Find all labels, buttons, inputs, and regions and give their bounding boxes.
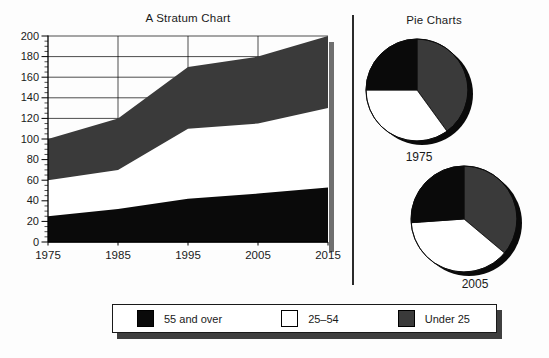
legend-box: 55 and over 25–54 Under 25 [112,304,497,333]
legend-swatch-under-25 [398,310,415,327]
svg-text:1985: 1985 [105,249,131,261]
legend-swatch-25-54 [281,310,298,327]
svg-text:100: 100 [21,133,39,145]
legend-item-under-25: Under 25 [398,310,470,327]
svg-text:60: 60 [27,174,39,186]
pie-chart-1975 [361,34,477,150]
figure-canvas: A Stratum Chart 020406080100120140160180… [0,0,549,358]
stratum-chart: 0204060801001201401601802001975198519952… [0,0,349,300]
svg-text:120: 120 [21,112,39,124]
svg-text:20: 20 [27,215,39,227]
legend-item-label: 25–54 [308,313,339,325]
legend-item-55-and-over: 55 and over [137,310,222,327]
svg-text:2005: 2005 [245,249,271,261]
section-divider [352,15,354,285]
svg-text:0: 0 [33,236,39,248]
legend-item-25-54: 25–54 [281,310,339,327]
svg-text:200: 200 [21,30,39,42]
legend-item-label: 55 and over [164,313,222,325]
svg-text:1995: 1995 [175,249,201,261]
svg-text:1975: 1975 [35,249,61,261]
svg-text:40: 40 [27,194,39,206]
pie-section-title: Pie Charts [371,14,497,26]
svg-text:180: 180 [21,50,39,62]
legend-swatch-55-and-over [137,310,154,327]
svg-text:2015: 2015 [315,249,341,261]
legend-item-label: Under 25 [425,313,470,325]
pie-chart-2005-label: 2005 [445,277,505,291]
svg-text:140: 140 [21,91,39,103]
svg-text:160: 160 [21,71,39,83]
pie-chart-2005 [406,161,526,281]
svg-text:80: 80 [27,153,39,165]
